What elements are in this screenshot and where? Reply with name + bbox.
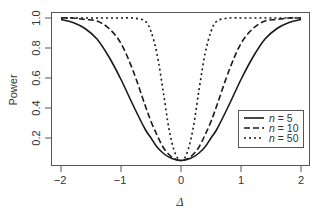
x-axis bbox=[61, 166, 301, 173]
y-tick-label: 0.6 bbox=[30, 70, 42, 85]
x-tick-label: 0 bbox=[178, 174, 184, 186]
y-tick-label: 0.2 bbox=[30, 130, 42, 145]
y-axis bbox=[45, 18, 52, 138]
y-tick-labels: 0.2 0.4 0.6 0.8 1.0 bbox=[30, 10, 42, 145]
legend: n = 5 n = 10 n = 50 bbox=[239, 111, 304, 148]
y-tick-label: 0.4 bbox=[30, 100, 42, 115]
x-tick-label: −1 bbox=[114, 174, 127, 186]
y-tick-label: 0.8 bbox=[30, 40, 42, 55]
x-tick-label: −2 bbox=[54, 174, 67, 186]
y-tick-label: 1.0 bbox=[30, 10, 42, 25]
legend-label-n50: n = 50 bbox=[269, 132, 299, 144]
x-tick-label: 2 bbox=[298, 174, 304, 186]
power-curve-chart: 0.2 0.4 0.6 0.8 1.0 Power −2 −1 0 1 2 Δ … bbox=[0, 0, 319, 215]
y-axis-title: Power bbox=[7, 74, 19, 106]
x-tick-label: 1 bbox=[238, 174, 244, 186]
x-tick-labels: −2 −1 0 1 2 bbox=[54, 174, 304, 186]
x-axis-title: Δ bbox=[175, 195, 183, 209]
